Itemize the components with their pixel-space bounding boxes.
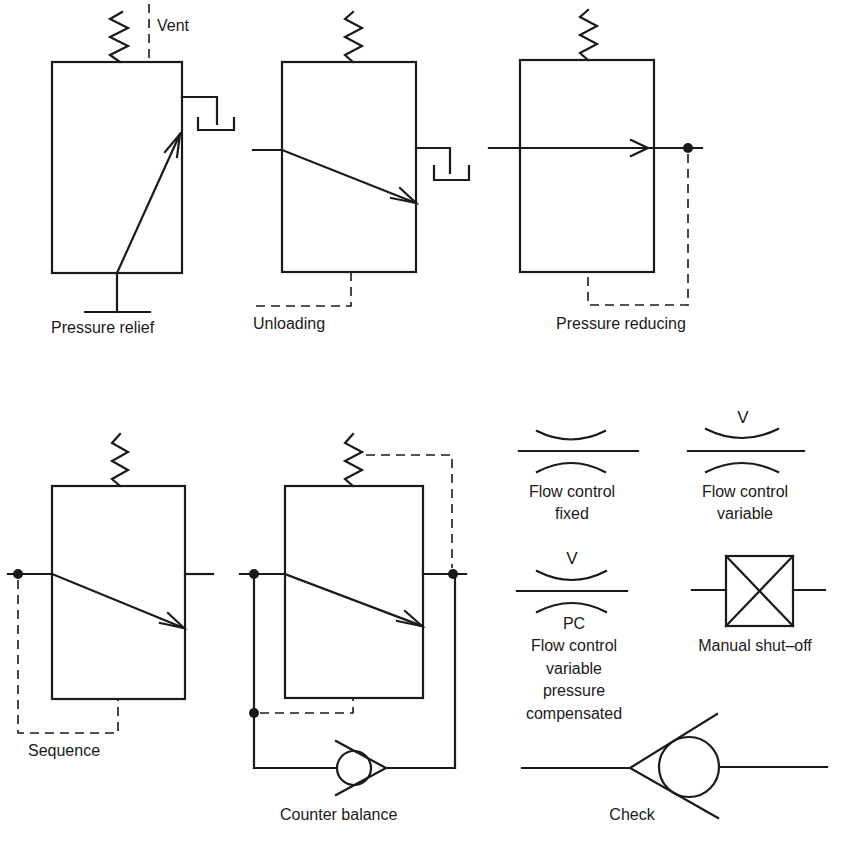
flow-control-variable-label-2: variable (717, 504, 773, 524)
restrictor-top-arc (537, 571, 606, 580)
variable-marker: V (737, 408, 748, 428)
flow-arrow (117, 134, 180, 273)
unloading-symbol (251, 12, 469, 306)
flow-control-pc-label-1: Flow control (531, 636, 617, 656)
junction-dot-outlet (448, 569, 458, 579)
flow-arrow (52, 574, 184, 628)
flow-control-pc-symbol (517, 571, 627, 612)
pressure-relief-label: Pressure relief (51, 318, 154, 338)
check-label: Check (609, 805, 654, 825)
flow-control-fixed-label-2: fixed (555, 504, 589, 524)
restrictor-top-arc (537, 431, 605, 440)
flow-arrow (282, 150, 416, 203)
junction-dot (683, 143, 693, 153)
junction-dot (13, 569, 23, 579)
pc-marker: PC (563, 614, 585, 634)
spring-icon (112, 434, 128, 486)
flow-arrow (285, 574, 422, 626)
valve-body (282, 62, 416, 272)
check-ball-icon (659, 737, 719, 797)
restrictor-bottom-arc (706, 463, 778, 472)
flow-control-variable-symbol (688, 429, 804, 472)
spring-icon (580, 10, 597, 60)
flow-control-pc-label-3: pressure (543, 681, 605, 701)
counter-balance-symbol (240, 434, 466, 795)
flow-control-pc-label-2: variable (546, 659, 602, 679)
pressure-relief-symbol (52, 4, 234, 312)
counter-balance-label: Counter balance (280, 805, 397, 825)
flow-control-fixed-symbol (519, 431, 638, 472)
check-seat-icon (336, 741, 386, 795)
sequence-label: Sequence (28, 741, 100, 761)
arrowhead-icon (165, 134, 180, 157)
valve-body (52, 62, 182, 273)
pressure-reducing-label: Pressure reducing (556, 314, 686, 334)
check-seat-icon (630, 714, 718, 818)
spring-icon (345, 434, 362, 486)
vent-label: Vent (157, 16, 189, 36)
tank-connection-line (182, 97, 217, 124)
restrictor-top-arc (706, 429, 778, 438)
flow-control-variable-label-1: Flow control (702, 482, 788, 502)
check-symbol (522, 714, 827, 818)
valve-body (285, 486, 423, 698)
pilot-dashed-line (251, 272, 351, 306)
pilot-dashed-line-bottom (260, 698, 353, 713)
pc-variable-marker: V (566, 549, 577, 569)
pressure-reducing-symbol (489, 10, 702, 305)
flow-control-pc-label-4: compensated (526, 704, 622, 724)
flow-control-fixed-label-1: Flow control (529, 482, 615, 502)
unloading-label: Unloading (253, 314, 325, 334)
pilot-dashed-line (18, 580, 118, 733)
tank-icon (434, 166, 469, 180)
spring-icon (110, 12, 128, 62)
pilot-dashed-line-top (366, 455, 452, 568)
valve-body (520, 60, 654, 272)
junction-dot-pilot (249, 708, 259, 718)
valve-body (52, 486, 185, 699)
restrictor-bottom-arc (537, 603, 606, 612)
pilot-dashed-line (588, 154, 688, 305)
restrictor-bottom-arc (537, 463, 605, 472)
spring-icon (345, 12, 362, 62)
sequence-symbol (8, 434, 213, 733)
manual-shutoff-symbol (692, 556, 825, 626)
manual-shutoff-label: Manual shut–off (698, 636, 812, 656)
